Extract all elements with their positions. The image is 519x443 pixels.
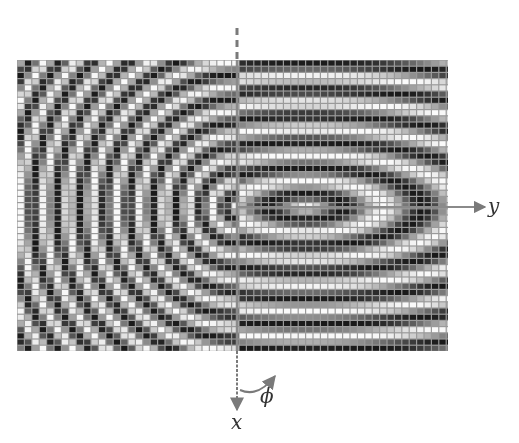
axes-overlay — [0, 0, 519, 443]
y-axis-label: y — [488, 196, 499, 216]
x-axis-label: x — [231, 412, 242, 432]
angle-phi-label: ϕ — [260, 386, 274, 406]
